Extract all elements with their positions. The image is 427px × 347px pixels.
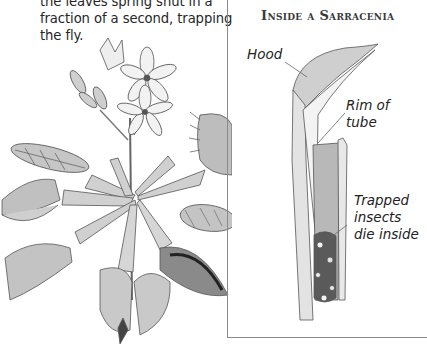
trapped-insects-label: Trapped insects die inside [354,192,419,243]
trapped-label-line: die inside [354,226,419,243]
trapped-label-line: insects [354,209,419,226]
trapped-label-line: Trapped [354,192,419,209]
rim-label-line: tube [346,114,390,131]
hood-label: Hood [247,46,282,63]
rim-of-tube-label: Rim of tube [346,97,390,131]
rim-label-line: Rim of [346,97,390,114]
